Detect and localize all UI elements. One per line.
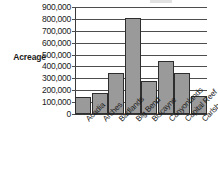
y-tick-mark [72, 66, 75, 67]
y-tick-label: 100,000 [27, 98, 71, 106]
bar-chart: Acreage 0100,000200,000300,000400,000500… [0, 0, 218, 171]
y-tick-label: 600,000 [27, 39, 71, 47]
y-tick-label: 800,000 [27, 15, 71, 23]
y-tick-label: 900,000 [27, 3, 71, 11]
y-tick-mark [72, 90, 75, 91]
y-tick-label: 0 [27, 110, 71, 118]
y-tick-mark [72, 31, 75, 32]
y-tick-label: 300,000 [27, 74, 71, 82]
gridline [75, 31, 207, 32]
y-tick-label: 400,000 [27, 62, 71, 70]
gridline [75, 66, 207, 67]
cropped-title-artifact [150, 0, 172, 3]
gridline [75, 7, 207, 8]
gridline [75, 55, 207, 56]
y-tick-mark [72, 55, 75, 56]
gridline [75, 43, 207, 44]
y-tick-mark [72, 78, 75, 79]
y-tick-mark [72, 19, 75, 20]
y-tick-label: 700,000 [27, 27, 71, 35]
y-tick-mark [72, 7, 75, 8]
gridline [75, 19, 207, 20]
y-tick-mark [72, 114, 75, 115]
y-tick-label: 200,000 [27, 86, 71, 94]
y-tick-mark [72, 43, 75, 44]
y-tick-label: 500,000 [27, 51, 71, 59]
